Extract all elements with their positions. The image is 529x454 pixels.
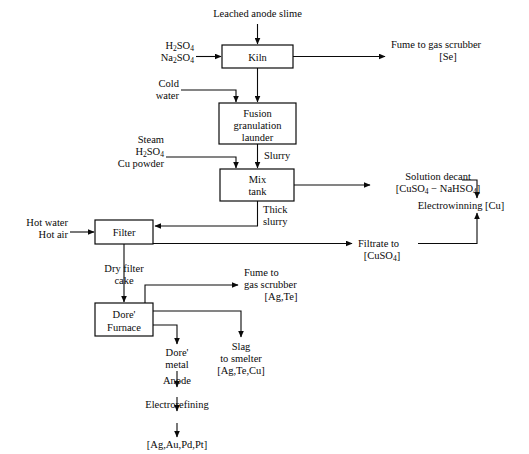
label-solution-decant-formula: [CuSO4 − NaHSO4] [396, 183, 481, 196]
label-se-bracket: [Se] [439, 51, 457, 62]
label-dry-filter: Dry filter [104, 263, 144, 274]
label-gas-scrubber: gas scrubber [244, 279, 297, 290]
label-thick: Thick [263, 204, 288, 215]
label-fume-to: Fume to [244, 267, 279, 278]
line-dore-to-fume-agte [145, 285, 238, 303]
label-hot-water: Hot water [26, 217, 68, 228]
line-filtrate-to-electrowinning [418, 213, 477, 244]
label-dore-furnace-line2: Furnace [107, 322, 141, 333]
label-fusion-line1: Fusion [243, 108, 272, 119]
line-coldwater-to-fusion [181, 90, 236, 102]
label-slurry-thick: slurry [263, 216, 288, 227]
label-hot-air: Hot air [39, 229, 69, 240]
label-na2so4-kiln-feed: Na2SO4 [161, 52, 194, 65]
label-fusion-line3: launder [242, 132, 274, 143]
label-water: water [156, 90, 180, 101]
label-to-smelter: to smelter [220, 353, 262, 364]
label-dore-furnace-line1: Dore' [113, 309, 136, 320]
box-labels: Kiln Fusion granulation launder Mix tank… [107, 52, 282, 333]
label-filtrate-formula: [CuSO4] [364, 250, 400, 263]
label-mix-tank-line1: Mix [249, 174, 267, 185]
label-solution-decant: Solution decant [405, 171, 471, 182]
label-mix-tank-line2: tank [248, 186, 267, 197]
label-anode: Anode [163, 375, 191, 386]
label-dore-metal-line2: metal [165, 359, 188, 370]
label-slag: Slag [232, 341, 251, 352]
line-dore-to-slag [153, 311, 241, 337]
label-steam: Steam [138, 134, 164, 145]
line-steam-to-mixtank [166, 157, 236, 168]
line-dore-to-dore-metal [153, 325, 177, 344]
label-fusion-line2: granulation [234, 120, 283, 131]
label-leached-anode-slime: Leached anode slime [213, 8, 302, 19]
process-flow-diagram: Kiln Fusion granulation launder Mix tank… [0, 0, 529, 454]
label-fume-to-gas-scrubber-se: Fume to gas scrubber [391, 39, 482, 50]
label-cu-powder: Cu powder [118, 158, 165, 169]
label-dore-metal-line1: Dore' [166, 347, 189, 358]
flowchart-canvas: Kiln Fusion granulation launder Mix tank… [0, 0, 529, 454]
label-electrowinning-cu: Electrowinning [Cu] [418, 200, 505, 211]
label-final-products: [Ag,Au,Pd,Pt] [147, 439, 207, 450]
label-ag-te-cu: [Ag,Te,Cu] [217, 365, 265, 376]
label-kiln: Kiln [248, 52, 267, 63]
line-mixtank-to-filter [155, 201, 258, 226]
label-filter: Filter [113, 227, 136, 238]
label-filtrate-to: Filtrate to [358, 238, 399, 249]
label-ag-te: [Ag,Te] [265, 291, 298, 302]
label-electrorefining: Electrorefining [145, 399, 209, 410]
label-slurry: Slurry [264, 150, 291, 161]
label-cake: cake [114, 275, 134, 286]
label-cold: Cold [159, 78, 180, 89]
